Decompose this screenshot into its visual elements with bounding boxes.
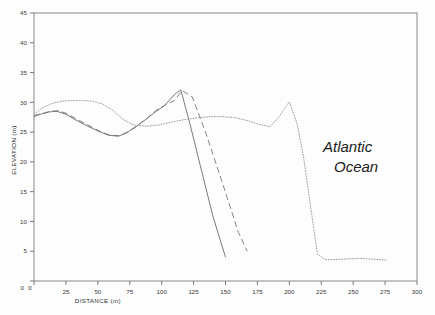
elevation-profile-chart: 0255075100125150175200225250275300 05101… (0, 0, 435, 315)
y-tick-label: 20 (20, 158, 27, 165)
x-tick-label: 250 (348, 288, 359, 295)
x-tick-label: 75 (126, 288, 133, 295)
x-tick-label: 100 (157, 288, 168, 295)
x-tick-label: 50 (94, 288, 101, 295)
chart-page: 0255075100125150175200225250275300 05101… (0, 0, 435, 315)
y-tick-label: 15 (20, 188, 27, 195)
atlantic-ocean-label-line2: Ocean (334, 158, 378, 175)
y-tick-label: 35 (20, 69, 27, 76)
x-tick-label: 0 (28, 284, 32, 291)
y-tick-label: 10 (20, 218, 27, 225)
x-tick-label: 300 (412, 288, 423, 295)
x-axis-title: DISTANCE (m) (75, 297, 121, 304)
y-tick-label: 30 (20, 99, 27, 106)
x-tick-label: 275 (380, 288, 391, 295)
series-profile-dotted (34, 101, 386, 261)
y-axis-title: ELEVATION (m) (10, 125, 17, 174)
x-tick-label: 175 (252, 288, 263, 295)
y-tick-label: 25 (20, 128, 27, 135)
x-axis-ticks (34, 281, 417, 285)
x-axis-tick-labels: 0255075100125150175200225250275300 (28, 284, 422, 295)
x-tick-label: 125 (188, 288, 199, 295)
series-profile-solid (34, 90, 226, 257)
x-tick-label: 225 (316, 288, 327, 295)
y-axis-ticks (30, 13, 34, 281)
y-tick-label: 5 (24, 247, 28, 254)
x-tick-label: 200 (284, 288, 295, 295)
x-tick-label: 25 (62, 288, 69, 295)
y-tick-label: 0 (21, 284, 25, 291)
x-tick-label: 150 (220, 288, 231, 295)
y-axis-tick-labels: 051015202530354045 (20, 9, 27, 291)
y-tick-label: 45 (20, 9, 27, 16)
y-tick-label: 40 (20, 39, 27, 46)
atlantic-ocean-label-line1: Atlantic (322, 138, 373, 155)
